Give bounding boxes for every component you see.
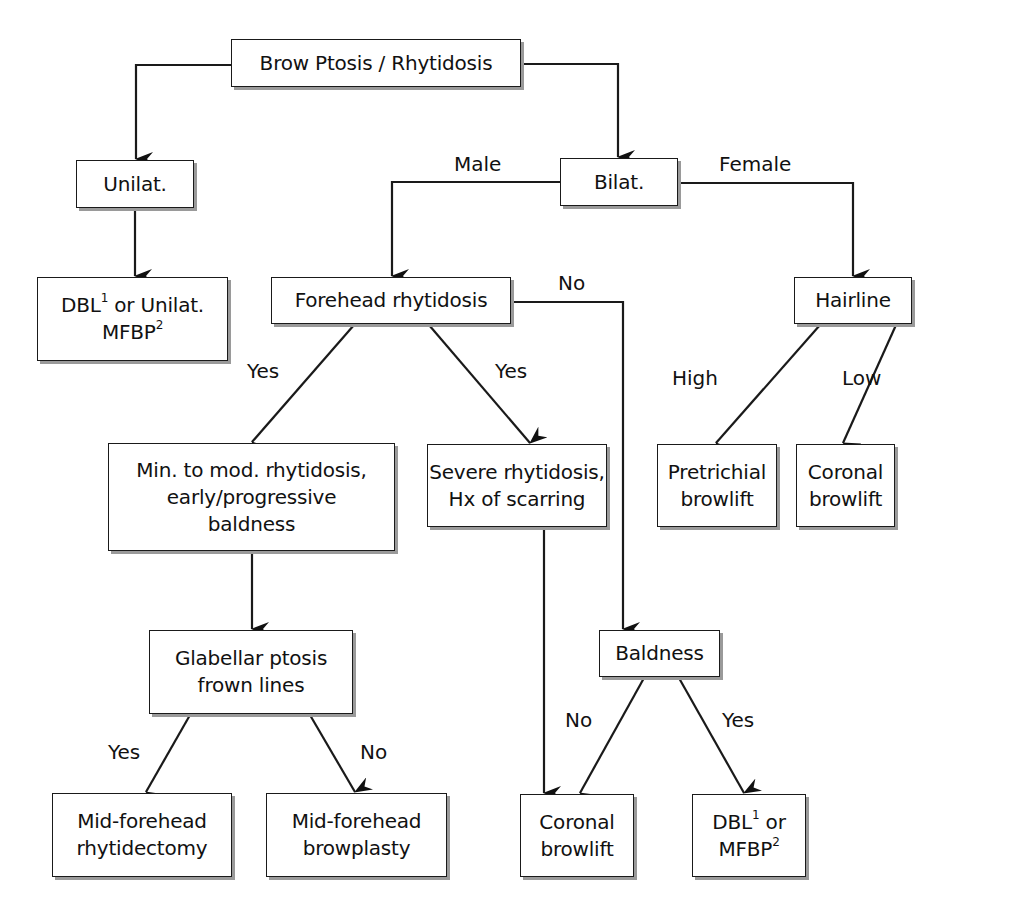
node-label-line2: MFBP2 bbox=[102, 319, 163, 346]
connector-arrow bbox=[392, 182, 560, 276]
footnote-1: 1 bbox=[101, 291, 108, 305]
node-label-line1: Mid-forehead bbox=[77, 808, 207, 835]
node-label-line1: Pretrichial bbox=[668, 459, 766, 486]
connector-arrow bbox=[252, 325, 354, 442]
node-label-line1: Coronal bbox=[808, 459, 883, 486]
connector-arrow bbox=[521, 64, 618, 157]
connector-arrow bbox=[679, 678, 744, 793]
node-label-line1: Mid-forehead bbox=[292, 808, 422, 835]
edge-label-yes-baldness: Yes bbox=[722, 708, 754, 732]
node-label-line2: rhytidectomy bbox=[77, 835, 208, 862]
footnote-1: 1 bbox=[752, 808, 759, 822]
node-dbl-or-unilat-mfbp: DBL1 or Unilat. MFBP2 bbox=[37, 277, 228, 361]
edge-label-low: Low bbox=[842, 366, 881, 390]
node-hairline: Hairline bbox=[794, 277, 912, 324]
connector-arrow bbox=[678, 183, 853, 276]
node-forehead-rhytidosis: Forehead rhytidosis bbox=[271, 277, 511, 324]
node-mid-forehead-rhytidectomy: Mid-forehead rhytidectomy bbox=[52, 793, 232, 877]
edge-label-yes-glabellar: Yes bbox=[108, 740, 140, 764]
edge-label-no-baldness: No bbox=[565, 708, 592, 732]
node-label-line1: Glabellar ptosis bbox=[175, 645, 327, 672]
node-label-line1: Coronal bbox=[539, 809, 614, 836]
node-label-line1: DBL1 or bbox=[712, 809, 785, 836]
connector-arrow bbox=[146, 715, 190, 792]
node-dbl-or-mfbp: DBL1 or MFBP2 bbox=[692, 794, 806, 877]
node-label: Forehead rhytidosis bbox=[295, 287, 488, 314]
node-label-line2: early/progressive bbox=[167, 484, 337, 511]
edge-label-male: Male bbox=[454, 152, 501, 176]
node-glabellar-ptosis: Glabellar ptosis frown lines bbox=[149, 630, 353, 714]
node-bilateral: Bilat. bbox=[560, 158, 678, 206]
edge-label-female: Female bbox=[719, 152, 791, 176]
node-label-line2: browplasty bbox=[303, 835, 411, 862]
node-brow-ptosis-rhytidosis: Brow Ptosis / Rhytidosis bbox=[231, 39, 521, 87]
footnote-2: 2 bbox=[156, 318, 163, 332]
node-unilateral: Unilat. bbox=[76, 160, 194, 208]
connector-arrow bbox=[310, 715, 355, 792]
node-label-line1: DBL1 or Unilat. bbox=[61, 292, 204, 319]
connector-arrow bbox=[136, 65, 231, 159]
flowchart-canvas: Brow Ptosis / Rhytidosis Unilat. Bilat. … bbox=[0, 0, 1027, 913]
abbrev-dbl: DBL bbox=[61, 293, 101, 317]
node-label: Bilat. bbox=[594, 169, 644, 196]
node-label: Unilat. bbox=[103, 171, 166, 198]
abbrev-mfbp: MFBP bbox=[102, 320, 156, 344]
edge-label-no-glabellar: No bbox=[360, 740, 387, 764]
edge-label-high: High bbox=[672, 366, 718, 390]
node-label-line3: baldness bbox=[208, 511, 295, 538]
node-label-line2: browlift bbox=[680, 486, 753, 513]
edge-label-yes-severe: Yes bbox=[495, 359, 527, 383]
node-label-line2: frown lines bbox=[198, 672, 305, 699]
node-label-line2: MFBP2 bbox=[718, 836, 779, 863]
node-label: Baldness bbox=[615, 640, 703, 667]
abbrev-dbl: DBL bbox=[712, 810, 752, 834]
node-label-line2: browlift bbox=[809, 486, 882, 513]
node-label-line2: Hx of scarring bbox=[449, 486, 586, 513]
node-mid-forehead-browplasty: Mid-forehead browplasty bbox=[266, 793, 447, 877]
edge-label-yes-minmod: Yes bbox=[247, 359, 279, 383]
node-coronal-browlift-male: Coronal browlift bbox=[520, 794, 634, 877]
node-label-rest: or bbox=[759, 810, 785, 834]
node-label-line1: Min. to mod. rhytidosis, bbox=[136, 457, 366, 484]
node-severe-rhytidosis: Severe rhytidosis, Hx of scarring bbox=[427, 444, 607, 527]
connector-arrow bbox=[716, 325, 820, 443]
node-baldness: Baldness bbox=[599, 630, 720, 677]
connector-arrow bbox=[580, 678, 644, 793]
node-min-to-mod-rhytidosis: Min. to mod. rhytidosis, early/progressi… bbox=[108, 443, 395, 551]
node-label-line1: Severe rhytidosis, bbox=[429, 459, 604, 486]
node-label-rest: or Unilat. bbox=[108, 293, 204, 317]
abbrev-mfbp: MFBP bbox=[718, 837, 772, 861]
footnote-2: 2 bbox=[772, 835, 779, 849]
edge-label-no-forehead: No bbox=[558, 271, 585, 295]
node-coronal-browlift-female: Coronal browlift bbox=[796, 444, 895, 527]
node-label: Brow Ptosis / Rhytidosis bbox=[260, 50, 493, 77]
node-label: Hairline bbox=[815, 287, 891, 314]
node-label-line2: browlift bbox=[540, 836, 613, 863]
node-pretrichial-browlift: Pretrichial browlift bbox=[657, 444, 777, 527]
connector-arrow bbox=[429, 325, 530, 443]
